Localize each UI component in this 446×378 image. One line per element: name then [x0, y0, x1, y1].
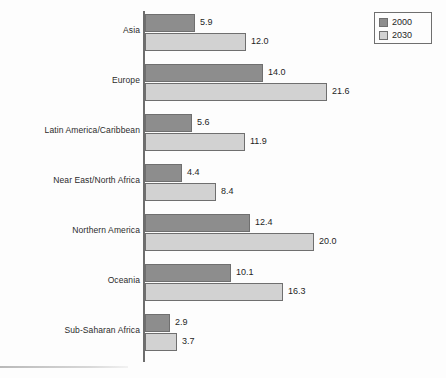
- bar-value-label: 11.9: [250, 136, 267, 146]
- bar-value-label: 5.6: [197, 117, 210, 127]
- bar-value-label: 20.0: [319, 236, 337, 246]
- category-label: Asia: [0, 25, 140, 35]
- bar-2000[interactable]: [145, 14, 195, 32]
- bar-2030[interactable]: [145, 33, 246, 51]
- bar-group: Oceania 10.1 16.3: [0, 261, 446, 309]
- category-label: Latin America/Caribbean: [0, 125, 140, 135]
- bar-2000[interactable]: [145, 314, 170, 332]
- bar-2030[interactable]: [145, 283, 283, 301]
- bar-2030[interactable]: [145, 333, 177, 351]
- category-label: Sub-Saharan Africa: [0, 325, 140, 335]
- category-label: Europe: [0, 75, 140, 85]
- bar-value-label: 12.0: [251, 36, 269, 46]
- bar-2000[interactable]: [145, 114, 192, 132]
- bar-value-label: 16.3: [288, 286, 306, 296]
- legend-label: 2030: [392, 30, 412, 40]
- bar-value-label: 14.0: [268, 67, 286, 77]
- category-label: Northern America: [0, 225, 140, 235]
- bar-value-label: 4.4: [187, 167, 200, 177]
- bar-value-label: 3.7: [182, 336, 195, 346]
- chart-legend: 2000 2030: [374, 12, 432, 44]
- bar-group: Sub-Saharan Africa 2.9 3.7: [0, 311, 446, 359]
- bar-group: Europe 14.0 21.6: [0, 61, 446, 109]
- legend-swatch-icon: [379, 18, 388, 27]
- bar-value-label: 2.9: [175, 317, 188, 327]
- bar-value-label: 10.1: [236, 267, 254, 277]
- bar-chart-plot-area: Asia 5.9 12.0 Europe 14.0 21.6 L: [0, 0, 446, 378]
- bar-2030[interactable]: [145, 183, 216, 201]
- legend-swatch-icon: [379, 31, 388, 40]
- bar-2000[interactable]: [145, 214, 250, 232]
- bar-value-label: 12.4: [255, 217, 273, 227]
- bar-2000[interactable]: [145, 64, 263, 82]
- scan-artifact-line: [0, 366, 128, 368]
- bar-2030[interactable]: [145, 133, 245, 151]
- bar-2030[interactable]: [145, 83, 327, 101]
- bar-2000[interactable]: [145, 264, 231, 282]
- bar-group: Near East/North Africa 4.4 8.4: [0, 161, 446, 209]
- legend-item-2000[interactable]: 2000: [379, 16, 427, 28]
- legend-item-2030[interactable]: 2030: [379, 29, 427, 41]
- bar-2030[interactable]: [145, 233, 314, 251]
- bar-group: Northern America 12.4 20.0: [0, 211, 446, 259]
- bar-value-label: 21.6: [332, 86, 350, 96]
- bar-group: Latin America/Caribbean 5.6 11.9: [0, 111, 446, 159]
- legend-label: 2000: [392, 17, 412, 27]
- category-label: Oceania: [0, 275, 140, 285]
- bar-value-label: 5.9: [200, 17, 213, 27]
- chart-page: Asia 5.9 12.0 Europe 14.0 21.6 L: [0, 0, 446, 378]
- bar-value-label: 8.4: [221, 186, 234, 196]
- category-label: Near East/North Africa: [0, 175, 140, 185]
- bar-2000[interactable]: [145, 164, 182, 182]
